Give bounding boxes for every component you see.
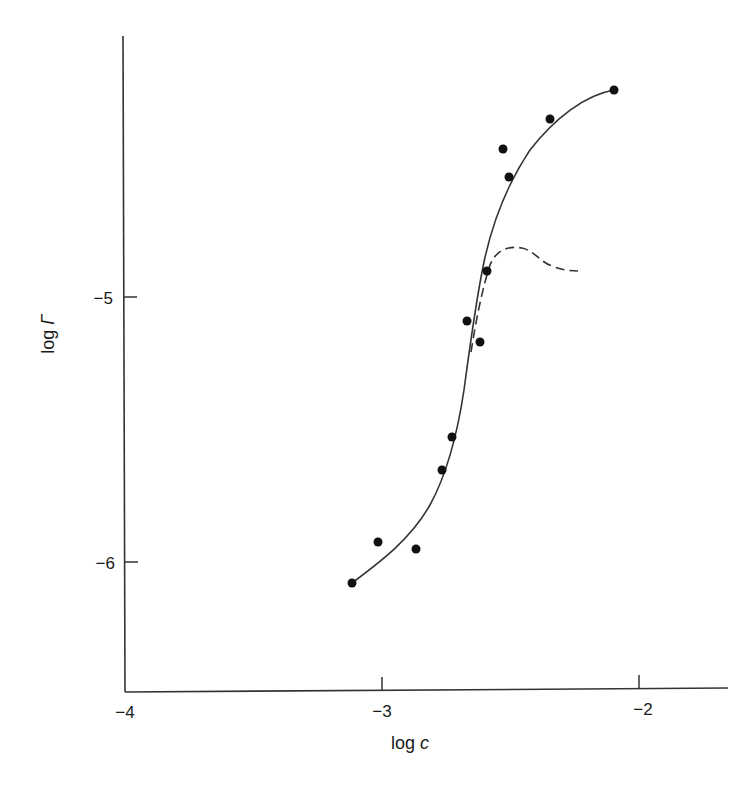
dashed-curve: [471, 247, 578, 352]
data-point: [348, 579, 357, 588]
data-point: [483, 267, 492, 276]
x-axis-label-var: c: [420, 733, 429, 753]
data-point: [463, 317, 472, 326]
x-axis-label: log c: [391, 733, 429, 753]
data-point: [412, 545, 421, 554]
data-points: [348, 86, 619, 588]
y-tick-label-minus5: −5: [94, 289, 113, 308]
y-axis-line: [123, 36, 125, 692]
data-point: [499, 145, 508, 154]
fitted-curve: [352, 90, 614, 583]
x-axis-label-prefix: log: [391, 733, 420, 753]
x-tick-label-minus2: −2: [633, 700, 652, 719]
data-point: [448, 433, 457, 442]
data-point: [610, 86, 619, 95]
x-tick-label-minus4: −4: [115, 703, 134, 722]
data-point: [438, 466, 447, 475]
data-point: [476, 338, 485, 347]
x-tick-label-minus3: −3: [372, 702, 391, 721]
y-tick-label-minus6: −6: [96, 554, 115, 573]
x-axis-line: [125, 688, 728, 692]
chart: −5 −6 −4 −3 −2 log c log Γ: [0, 0, 739, 787]
data-point: [546, 115, 555, 124]
y-axis-label: log Γ: [38, 314, 58, 354]
x-ticks: −4 −3 −2: [115, 675, 652, 722]
y-axis-label-var: Γ: [38, 314, 58, 325]
y-ticks: −5 −6: [94, 289, 138, 573]
data-point: [505, 173, 514, 182]
data-point: [374, 538, 383, 547]
y-axis-label-prefix: log: [38, 325, 58, 354]
